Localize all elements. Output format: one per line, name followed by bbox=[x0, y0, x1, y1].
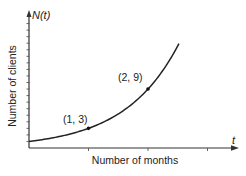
exponential-chart bbox=[0, 0, 246, 176]
y-axis-title: Number of clients bbox=[7, 45, 18, 127]
x-variable-label: t bbox=[232, 135, 235, 146]
y-variable-label: N(t) bbox=[32, 10, 50, 21]
data-point-2 bbox=[146, 87, 150, 91]
x-axis-arrow-icon bbox=[231, 145, 239, 150]
point-label-2: (2, 9) bbox=[118, 72, 143, 83]
data-points bbox=[87, 87, 150, 130]
x-axis-title: Number of months bbox=[92, 155, 178, 166]
point-label-1: (1, 3) bbox=[63, 114, 88, 125]
y-axis-arrow-icon bbox=[27, 10, 32, 17]
data-point-1 bbox=[87, 127, 91, 131]
exponential-curve bbox=[29, 44, 179, 142]
